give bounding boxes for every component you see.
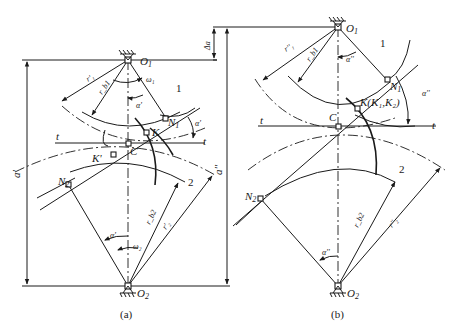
label-n1-a: N1	[167, 116, 179, 130]
label-o1-b: O1	[346, 22, 358, 36]
label-rb2-a: r_b2	[144, 208, 159, 226]
label-alpha-dprime-3: α''	[322, 248, 330, 257]
label-c-b: C	[329, 111, 337, 123]
label-c-a: C	[130, 145, 138, 157]
label-r1-prime: r'₁	[85, 72, 96, 84]
label-o2-a: O2	[137, 287, 149, 301]
label-omega1: ω₁	[146, 75, 155, 84]
label-t-left-b: t	[260, 114, 264, 126]
label-gear-2-b: 2	[399, 163, 405, 175]
label-o1-a: O1	[140, 55, 152, 69]
label-gear-2-a: 2	[188, 176, 194, 188]
caption-b: (b)	[331, 308, 344, 321]
label-t-right-a: t	[203, 135, 207, 147]
panel-a: O1 O2 N1 N2 K K' C t t 1 2 ω₁ ω₂ α' α' α…	[10, 50, 230, 321]
label-rb2-b: r_b2	[352, 211, 367, 229]
label-t-left-a: t	[56, 130, 60, 142]
label-n2-a: N2	[57, 175, 69, 189]
gear-meshing-diagram: O1 O2 N1 N2 K K' C t t 1 2 ω₁ ω₂ α' α' α…	[0, 0, 457, 328]
label-k-b: K(K₁,K₂)	[359, 96, 400, 109]
label-alpha-dprime-2: α''	[422, 89, 430, 98]
label-r1-dprime: r''₁	[283, 41, 296, 54]
label-k-a: K	[151, 126, 160, 138]
label-alpha-prime-2: α'	[195, 119, 201, 128]
label-a-double-prime: a''	[212, 164, 224, 175]
label-alpha-prime-3: α'	[110, 231, 116, 240]
label-k-prime: K'	[91, 152, 102, 164]
caption-a: (a)	[120, 308, 133, 321]
label-o2-b: O2	[347, 287, 359, 301]
label-alpha-dprime-1: α''	[346, 55, 354, 64]
label-a-prime: a'	[10, 170, 22, 179]
label-gear-1-a: 1	[176, 82, 182, 94]
panel-b: O1 O2 N1 N2 K(K₁,K₂) C t t 1 2 α'' α'' α…	[203, 17, 445, 321]
label-r2-prime: r'₂	[160, 220, 172, 232]
label-omega2: ω₂	[133, 242, 142, 251]
label-gear-1-b: 1	[380, 37, 386, 49]
label-alpha-prime-1: α'	[136, 101, 142, 110]
label-t-right-b: t	[432, 119, 436, 131]
label-n2-b: N2	[244, 190, 256, 204]
label-delta-a: Δa	[203, 41, 212, 51]
